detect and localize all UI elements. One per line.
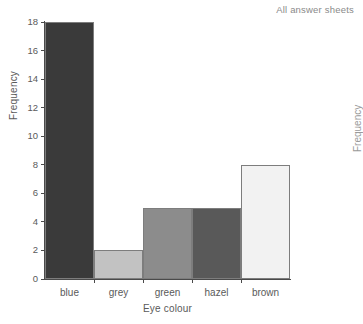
bar-blue (45, 22, 94, 279)
x-tick-label-green: green (143, 286, 192, 299)
y-tick-label: 8 (33, 158, 38, 171)
y-tick-label: 18 (27, 15, 38, 28)
y-tick-label: 0 (33, 272, 38, 285)
x-axis-line (44, 279, 291, 280)
x-tick-label-blue: blue (45, 286, 94, 299)
x-tick-label-brown: brown (241, 286, 290, 299)
x-tick-mark (143, 279, 144, 283)
bar-chart: Frequency Eye colour 024681012141618 blu… (0, 0, 300, 324)
bar-hazel (192, 208, 241, 279)
y-tick-label: 10 (27, 129, 38, 142)
y-tick-label: 16 (27, 44, 38, 57)
x-axis-title: Eye colour (45, 303, 290, 314)
y-tick-label: 4 (33, 215, 38, 228)
bar-green (143, 208, 192, 279)
x-tick-mark (192, 279, 193, 283)
bar-brown (241, 165, 290, 279)
bar-grey (94, 250, 143, 279)
y-tick-label: 14 (27, 72, 38, 85)
x-tick-label-grey: grey (94, 286, 143, 299)
x-tick-mark (241, 279, 242, 283)
x-tick-mark (94, 279, 95, 283)
y-tick-label: 2 (33, 243, 38, 256)
plot-area (45, 22, 290, 279)
y-axis-title: Frequency (8, 71, 19, 120)
x-tick-label-hazel: hazel (192, 286, 241, 299)
y-tick-label: 6 (33, 186, 38, 199)
y-tick-label: 12 (27, 101, 38, 114)
neighbor-y-axis-title: Frequency (352, 105, 363, 152)
